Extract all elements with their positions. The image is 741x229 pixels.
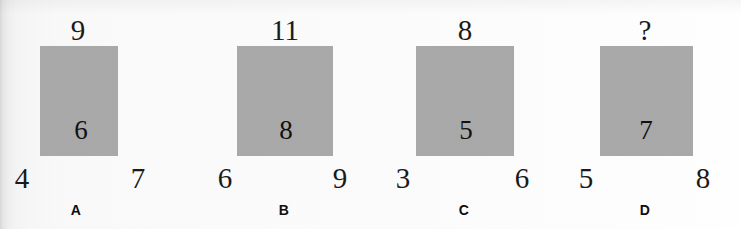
option-d-inner-number: 7 <box>639 117 653 144</box>
option-d-top-number: ? <box>639 16 652 45</box>
option-b-bottom-right-number: 9 <box>333 164 348 193</box>
option-c-inner-number: 5 <box>459 117 473 144</box>
option-a-bottom-left-number: 4 <box>15 164 30 193</box>
option-d-bottom-right-number: 8 <box>696 164 711 193</box>
option-d-label: D <box>640 203 651 217</box>
option-c-bottom-right-number: 6 <box>515 164 530 193</box>
option-d-bottom-left-number: 5 <box>579 164 594 193</box>
option-b[interactable]: 11 8 6 9 B <box>190 0 380 229</box>
option-c-bottom-left-number: 3 <box>396 164 411 193</box>
option-b-label: B <box>279 203 290 217</box>
puzzle-canvas: 9 6 4 7 A 11 8 6 9 B 8 5 3 6 C ? <box>0 0 741 229</box>
option-a-label: A <box>71 203 82 217</box>
option-b-bottom-left-number: 6 <box>218 164 233 193</box>
option-a-inner-number: 6 <box>74 117 88 144</box>
option-d[interactable]: ? 7 5 8 D <box>555 0 741 229</box>
option-a-top-number: 9 <box>71 16 86 45</box>
option-a[interactable]: 9 6 4 7 A <box>0 0 190 229</box>
option-b-top-number: 11 <box>271 16 299 45</box>
option-c-top-number: 8 <box>458 16 473 45</box>
option-c-label: C <box>459 203 470 217</box>
option-b-inner-number: 8 <box>279 117 293 144</box>
option-a-bottom-right-number: 7 <box>131 164 146 193</box>
option-c[interactable]: 8 5 3 6 C <box>370 0 555 229</box>
